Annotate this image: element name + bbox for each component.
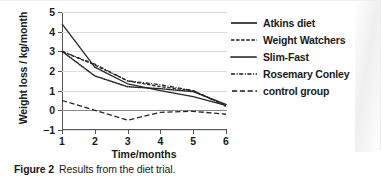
legend-swatch-solid-icon xyxy=(231,18,257,28)
legend-swatch-dotted-icon xyxy=(231,52,257,62)
x-axis-title: Time/months xyxy=(62,148,226,160)
legend-item: Atkins diet xyxy=(231,14,355,31)
legend-label: Atkins diet xyxy=(263,17,315,29)
x-tick xyxy=(193,130,194,134)
series-line xyxy=(62,24,226,106)
x-tick-label: 2 xyxy=(92,136,98,147)
x-tick xyxy=(95,130,96,134)
legend-label: Weight Watchers xyxy=(263,34,345,46)
y-tick-label: 3 xyxy=(49,46,55,57)
y-tick-label: 2 xyxy=(49,66,55,77)
series-line xyxy=(62,51,226,105)
legend-item: control group xyxy=(231,82,355,99)
legend-swatch-dash-dot-icon xyxy=(231,69,257,79)
x-tick xyxy=(160,130,161,134)
x-tick-label: 3 xyxy=(125,136,131,147)
chart-legend: Atkins dietWeight WatchersSlim-FastRosem… xyxy=(231,14,355,99)
x-tick-label: 6 xyxy=(223,136,229,147)
series-lines xyxy=(62,12,226,130)
y-tick-label: 5 xyxy=(49,7,55,18)
legend-item: Slim-Fast xyxy=(231,48,355,65)
x-tick-label: 1 xyxy=(59,136,65,147)
caption-label: Figure 2 xyxy=(14,163,54,175)
figure-caption: Figure 2Results from the diet trial. xyxy=(14,163,175,175)
scan-edge-shadow xyxy=(355,0,381,152)
y-tick-label: 1 xyxy=(49,85,55,96)
legend-label: Slim-Fast xyxy=(263,51,309,63)
y-tick-label: 4 xyxy=(49,26,55,37)
caption-text: Results from the diet trial. xyxy=(59,163,175,175)
legend-swatch-long-dash-icon xyxy=(231,86,257,96)
legend-item: Weight Watchers xyxy=(231,31,355,48)
series-line xyxy=(62,101,226,121)
grid-line xyxy=(62,130,227,131)
y-axis-title: Weight loss / kg/month xyxy=(17,0,29,136)
x-tick-label: 5 xyxy=(190,136,196,147)
legend-label: Rosemary Conley xyxy=(263,68,349,80)
figure-container: Weight loss / kg/month −1012345 123456 T… xyxy=(0,0,381,186)
series-line xyxy=(62,51,226,104)
legend-item: Rosemary Conley xyxy=(231,65,355,82)
y-tick-label: −1 xyxy=(43,125,55,136)
legend-label: control group xyxy=(263,85,329,97)
x-tick xyxy=(62,130,63,134)
x-tick xyxy=(226,130,227,134)
x-tick-label: 4 xyxy=(157,136,163,147)
legend-swatch-dashed-icon xyxy=(231,35,257,45)
y-tick-label: 0 xyxy=(49,105,55,116)
plot-area: −1012345 123456 xyxy=(62,12,226,130)
x-tick xyxy=(128,130,129,134)
